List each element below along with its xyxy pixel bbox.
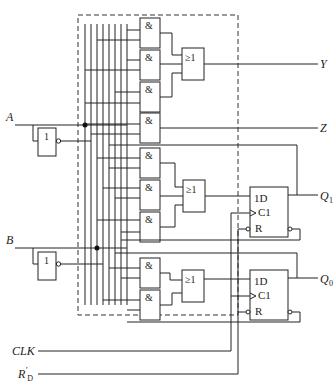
- svg-text:≥1: ≥1: [186, 184, 197, 195]
- a-label: A: [5, 110, 14, 124]
- b-label: B: [6, 233, 14, 247]
- svg-text:1: 1: [329, 196, 333, 205]
- z-label: Z: [320, 121, 327, 135]
- svg-text:&: &: [145, 52, 153, 63]
- svg-text:R: R: [255, 305, 263, 317]
- svg-text:&: &: [145, 84, 153, 95]
- a-junction: [83, 123, 88, 128]
- input-bus: [85, 24, 127, 305]
- svg-text:1: 1: [44, 131, 49, 142]
- pla-circuit-diagram: & & & & & & & & & ≥1 ≥1 ≥1 Y: [0, 0, 336, 382]
- y-label: Y: [320, 57, 328, 71]
- svg-text:&: &: [145, 292, 153, 303]
- svg-text:&: &: [145, 260, 153, 271]
- and-or-wires: [160, 33, 183, 305]
- svg-text:≥1: ≥1: [185, 274, 196, 285]
- flipflop-q1: 1D C1 R: [246, 187, 292, 237]
- and-input-wires: [85, 30, 140, 310]
- svg-text:&: &: [145, 20, 153, 31]
- svg-text:&: &: [145, 150, 153, 161]
- clk-label: CLK: [12, 344, 36, 358]
- svg-text:Q: Q: [320, 272, 329, 286]
- and-gates: [140, 18, 160, 320]
- svg-text:C1: C1: [258, 206, 271, 218]
- b-junction: [95, 246, 100, 251]
- svg-text:&: &: [145, 182, 153, 193]
- flipflop-q0: 1D C1 R: [246, 270, 292, 320]
- svg-text:0: 0: [329, 279, 333, 288]
- svg-text:≥1: ≥1: [185, 52, 196, 63]
- svg-text:C1: C1: [258, 289, 271, 301]
- svg-text:1D: 1D: [254, 275, 268, 287]
- rd-label: R′D: [17, 365, 33, 382]
- svg-text:&: &: [145, 115, 153, 126]
- svg-text:1: 1: [44, 255, 49, 266]
- svg-text:&: &: [145, 214, 153, 225]
- svg-text:1D: 1D: [254, 192, 268, 204]
- svg-text:R: R: [255, 222, 263, 234]
- svg-text:Q: Q: [320, 189, 329, 203]
